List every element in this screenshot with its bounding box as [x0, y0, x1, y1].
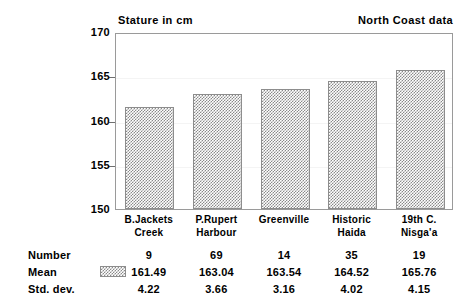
- table-cell-number: 35: [318, 249, 386, 261]
- table-cell-mean: 161.49: [115, 266, 183, 278]
- table-cell-number: 9: [115, 249, 183, 261]
- chart-title-right: North Coast data: [358, 14, 453, 26]
- table-cell-mean: 165.76: [385, 266, 453, 278]
- table-cell-mean: 163.54: [250, 266, 318, 278]
- chart-title-left: Stature in cm: [118, 14, 193, 26]
- table-cell-number: 69: [183, 249, 251, 261]
- x-axis-label-line: Greenville: [250, 213, 318, 226]
- x-axis-label-line: 19th C.: [385, 213, 453, 226]
- table-row-label-std-dev: Std. dev.: [28, 283, 75, 295]
- x-axis-label-line: Historic: [318, 213, 386, 226]
- x-axis-label-line: Creek: [115, 226, 183, 239]
- x-axis-label: P.RupertHarbour: [183, 213, 251, 239]
- x-axis-label: 19th C.Nisga'a: [385, 213, 453, 239]
- x-axis-label-line: Haida: [318, 226, 386, 239]
- table-cell-std-dev: 3.16: [250, 283, 318, 295]
- x-axis-label: Greenville: [250, 213, 318, 226]
- table-cell-number: 14: [250, 249, 318, 261]
- x-axis-label: HistoricHaida: [318, 213, 386, 239]
- x-axis-label-line: Nisga'a: [385, 226, 453, 239]
- y-tick-label: 165: [70, 70, 110, 82]
- bar: [328, 81, 377, 210]
- table-row-label-mean: Mean: [28, 266, 57, 278]
- table-cell-std-dev: 4.02: [318, 283, 386, 295]
- table-cell-std-dev: 4.15: [385, 283, 453, 295]
- y-tick-label: 150: [70, 203, 110, 215]
- table-cell-std-dev: 3.66: [183, 283, 251, 295]
- table-cell-std-dev: 4.22: [115, 283, 183, 295]
- y-tick-label: 155: [70, 159, 110, 171]
- x-axis-label: B.JacketsCreek: [115, 213, 183, 239]
- table-cell-mean: 163.04: [183, 266, 251, 278]
- bar: [125, 107, 174, 209]
- chart-canvas: Stature in cm North Coast data 150155160…: [0, 0, 476, 308]
- y-tick-label: 160: [70, 115, 110, 127]
- table-cell-mean: 164.52: [318, 266, 386, 278]
- bar: [193, 94, 242, 209]
- bar: [261, 89, 310, 209]
- bar: [396, 70, 445, 209]
- y-tick-label: 170: [70, 26, 110, 38]
- x-axis-label-line: Harbour: [183, 226, 251, 239]
- x-axis-label-line: B.Jackets: [115, 213, 183, 226]
- x-axis-label-line: P.Rupert: [183, 213, 251, 226]
- table-cell-number: 19: [385, 249, 453, 261]
- plot-area: [115, 33, 453, 210]
- table-row-label-number: Number: [28, 249, 71, 261]
